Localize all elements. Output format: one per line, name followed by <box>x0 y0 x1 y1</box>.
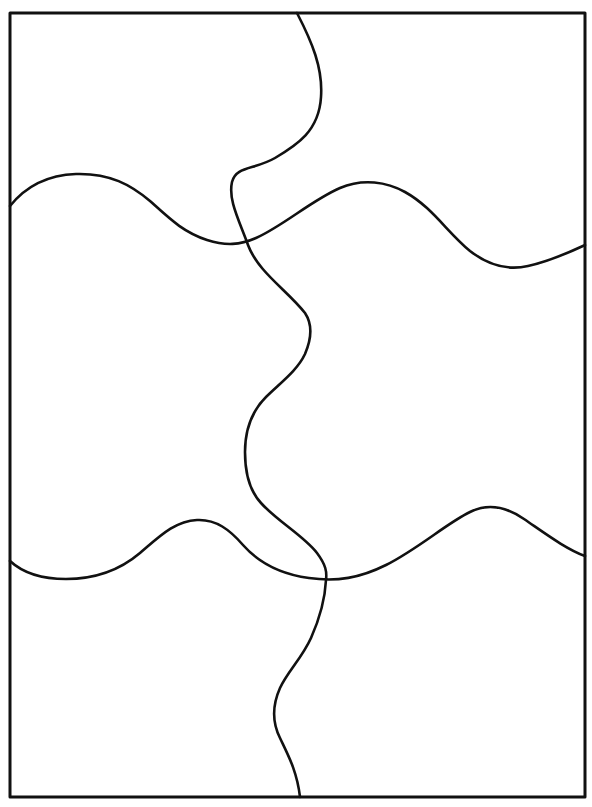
page-background <box>0 0 592 807</box>
puzzle-drawing <box>0 0 592 807</box>
puzzle-page <box>0 0 592 807</box>
